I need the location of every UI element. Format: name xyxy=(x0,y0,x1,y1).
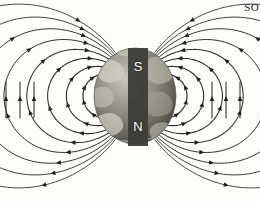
field-arrowhead xyxy=(32,96,37,101)
magnet-south-pole-label: S xyxy=(128,60,148,73)
field-lines-canvas xyxy=(0,0,260,203)
field-arrowhead xyxy=(18,96,23,101)
field-arrowhead xyxy=(41,182,46,186)
field-arrowhead xyxy=(183,99,188,104)
field-arrowhead xyxy=(209,160,214,165)
field-arrowhead xyxy=(186,131,191,136)
field-arrowhead xyxy=(87,66,92,71)
field-arrowhead xyxy=(48,106,52,111)
field-arrowhead xyxy=(82,99,87,104)
field-arrowhead xyxy=(217,106,221,111)
field-arrowhead xyxy=(194,140,199,145)
field-arrowhead xyxy=(70,140,75,145)
field-arrowhead xyxy=(56,160,61,165)
field-arrowhead xyxy=(66,150,71,155)
field-arrowhead xyxy=(83,40,88,44)
field-arrowhead xyxy=(26,48,31,53)
field-arrowhead xyxy=(238,96,243,101)
field-arrowhead xyxy=(177,56,182,61)
field-arrowhead xyxy=(255,37,260,42)
field-arrowhead xyxy=(180,48,185,53)
field-arrowhead xyxy=(84,48,89,53)
field-arrowhead xyxy=(178,66,183,71)
field-arrowhead xyxy=(214,170,219,175)
field-arrowhead xyxy=(50,170,55,175)
field-arrowhead xyxy=(88,56,93,61)
field-arrowhead xyxy=(181,40,186,44)
field-arrowhead xyxy=(223,182,228,186)
field-arrowhead xyxy=(238,48,243,53)
field-arrowhead xyxy=(199,150,204,155)
field-arrowhead xyxy=(210,96,215,101)
magnetic-field-diagram: S N SO xyxy=(0,0,260,203)
field-arrowhead xyxy=(79,131,84,136)
field-arrowhead xyxy=(259,113,260,118)
field-arrowhead xyxy=(196,77,201,82)
field-arrowhead xyxy=(224,96,229,101)
corner-text-label: SO xyxy=(244,2,259,13)
magnet-north-pole-label: N xyxy=(128,120,148,133)
field-arrowhead xyxy=(69,77,74,82)
